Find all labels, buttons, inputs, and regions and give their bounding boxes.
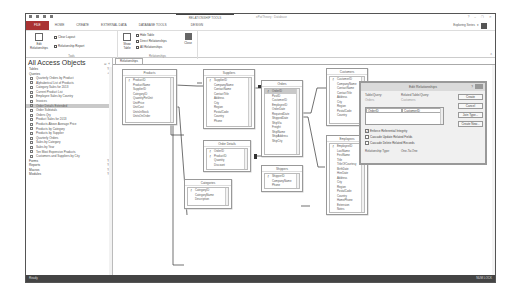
left-field-cell[interactable]: OrderID	[366, 108, 402, 113]
tab-external-data[interactable]: EXTERNAL DATA	[95, 21, 133, 30]
create-new-button[interactable]: Create New...	[458, 121, 483, 127]
field-item[interactable]: Phone	[207, 119, 251, 124]
grid-scrollbar[interactable]	[440, 108, 443, 124]
clear-layout-label: Clear Layout	[58, 35, 75, 39]
relationships-canvas[interactable]: Products ProductIDProductNameSupplierIDC…	[113, 65, 493, 277]
table-categories[interactable]: Categories CategoryIDCategoryNameDescrip…	[184, 179, 232, 209]
relationship-report-button[interactable]: Relationship Report	[54, 44, 84, 48]
field-mapping-grid: OrderID CustomerID	[365, 107, 444, 125]
query-icon	[30, 91, 33, 94]
table-orders[interactable]: Orders OrderIDPostIDCustomerIDEmployeeID…	[261, 80, 303, 157]
user-name: Exploring Series	[453, 21, 475, 30]
chevron-down-icon: ▾	[477, 21, 479, 30]
dialog-title-bar[interactable]: Edit Relationships ?	[361, 83, 485, 91]
minimize-icon[interactable]: –	[474, 15, 476, 19]
canvas-scrollbar[interactable]	[492, 65, 495, 277]
all-relationships-button[interactable]: All Relationships	[136, 45, 162, 49]
field-item[interactable]: Phone	[265, 183, 299, 188]
tools-group: Edit Relationships Clear Layout Relation…	[26, 31, 118, 59]
field-item[interactable]: UnitsOnOrder	[126, 114, 173, 119]
show-table-button[interactable]: Show Table	[121, 33, 133, 50]
query-icon	[30, 150, 33, 153]
field-list-scrollbar[interactable]	[296, 89, 299, 154]
nav-section-queries[interactable]: Queries ^	[26, 72, 112, 77]
field-item[interactable]: Notes	[330, 207, 364, 212]
query-icon	[30, 146, 33, 149]
tab-design[interactable]: DESIGN	[185, 21, 209, 30]
table-query-select[interactable]: Orders	[365, 98, 374, 102]
help-icon[interactable]: ?	[471, 83, 473, 91]
table-products[interactable]: Products ProductIDProductNameSupplierIDC…	[122, 69, 177, 125]
nav-title: All Access Objects	[28, 59, 86, 66]
table-title: Orders	[262, 81, 302, 87]
query-icon	[30, 109, 33, 112]
right-field-cell[interactable]: CustomerID	[402, 108, 441, 113]
window-controls: ? – ❐ ✕	[468, 15, 492, 19]
redo-icon[interactable]	[50, 15, 53, 18]
app-title: ePatTheory : Database	[256, 15, 287, 19]
cancel-button[interactable]: Cancel	[458, 103, 483, 109]
direct-relationships-button[interactable]: Direct Relationships	[136, 39, 167, 43]
hide-table-button[interactable]: Hide Table	[136, 33, 154, 37]
checkbox-label: Cascade Update Related Fields	[370, 135, 412, 139]
undo-icon[interactable]	[43, 15, 46, 18]
field-list-scrollbar[interactable]	[248, 78, 251, 126]
user-account[interactable]: Exploring Series ▾	[453, 21, 487, 30]
section-label: Forms	[29, 159, 38, 163]
related-table-query-label: Related Table/Query:	[401, 93, 429, 97]
field-item[interactable]: Discount	[207, 163, 247, 168]
relationships-group: Show Table Hide Table Direct Relationshi…	[118, 31, 198, 59]
field-list: OrderIDPostIDCustomerIDEmployeeIDOrderDa…	[264, 88, 300, 155]
edit-relationships-button[interactable]: Edit Relationships	[29, 33, 49, 50]
clear-layout-button[interactable]: Clear Layout	[54, 35, 75, 39]
query-icon	[30, 127, 33, 130]
field-list-scrollbar[interactable]	[244, 149, 247, 169]
close-label: Close	[182, 41, 194, 45]
cascade-delete-checkbox[interactable]: Cascade Delete Related Records	[365, 141, 415, 145]
close-icon[interactable]: ✕	[489, 15, 492, 19]
field-item[interactable]: ShipCity	[265, 139, 299, 144]
nav-pane-header[interactable]: All Access Objects ⊙ «	[26, 58, 112, 67]
related-table-query-select[interactable]: Customers	[401, 98, 416, 102]
join-type-button[interactable]: Join Type...	[458, 112, 483, 118]
show-table-label: Show Table	[121, 42, 133, 50]
close-relationships-button[interactable]: Close	[182, 33, 194, 45]
restore-icon[interactable]: ❐	[481, 15, 484, 19]
nav-section-modules[interactable]: Modules ¥	[26, 172, 112, 177]
status-text: Ready	[29, 276, 38, 280]
field-list-scrollbar[interactable]	[225, 188, 228, 205]
ribbon: Edit Relationships Clear Layout Relation…	[26, 30, 495, 58]
query-icon	[30, 81, 33, 84]
tab-database-tools[interactable]: DATABASE TOOLS	[133, 21, 173, 30]
query-icon	[30, 155, 33, 158]
tab-home[interactable]: HOME	[49, 21, 71, 30]
save-icon[interactable]	[36, 15, 39, 18]
table-shippers[interactable]: Shippers ShipperIDCompanyNamePhone	[261, 165, 303, 192]
tab-create[interactable]: CREATE	[70, 21, 95, 30]
direct-relationships-icon	[136, 40, 139, 43]
relationship-report-label: Relationship Report	[58, 44, 84, 48]
field-list-scrollbar[interactable]	[296, 174, 299, 188]
dialog-title: Edit Relationships	[409, 85, 437, 89]
nav-scrollbar[interactable]	[109, 67, 112, 276]
help-icon[interactable]: ?	[468, 15, 470, 19]
close-icon[interactable]	[475, 84, 483, 89]
table-title: Suppliers	[204, 70, 254, 76]
all-relationships-label: All Relationships	[140, 45, 162, 49]
enforce-referential-integrity-checkbox[interactable]: ✓ Enforce Referential Integrity	[365, 129, 407, 133]
create-button[interactable]: Create	[458, 94, 483, 100]
cascade-update-checkbox[interactable]: Cascade Update Related Fields	[365, 135, 412, 139]
field-item[interactable]: Description	[188, 197, 228, 202]
checkbox-checked: ✓	[365, 129, 369, 133]
query-icon	[30, 86, 33, 89]
field-list-scrollbar[interactable]	[170, 78, 173, 122]
close-x-icon	[185, 33, 192, 40]
table-suppliers[interactable]: Suppliers SupplierIDCompanyNameContactNa…	[203, 69, 255, 129]
query-list: Quarterly Orders by ProductAlphabetical …	[26, 76, 112, 159]
field-list: OrderIDProductIDQuantityDiscount	[206, 148, 248, 170]
tab-file[interactable]: FILE	[26, 21, 49, 30]
section-label: Modules	[29, 172, 41, 176]
collapse-ribbon-icon[interactable]: ˄	[490, 52, 492, 56]
table-order-details[interactable]: Order Details OrderIDProductIDQuantityDi…	[203, 140, 251, 172]
query-icon	[30, 100, 33, 103]
